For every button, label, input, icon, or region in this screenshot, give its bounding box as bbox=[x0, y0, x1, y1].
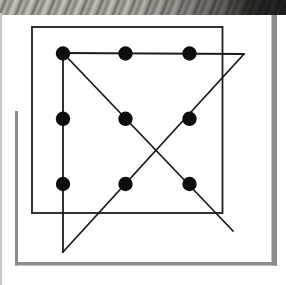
scanned-figure-page bbox=[0, 0, 286, 285]
frame-bottom-bar bbox=[15, 262, 277, 266]
dot-row2-col3 bbox=[182, 112, 196, 126]
dot-row1-col1 bbox=[56, 46, 70, 60]
dot-row3-col2 bbox=[118, 177, 132, 191]
solution-diagonal-up-right-line bbox=[63, 54, 244, 252]
dot-row2-col2 bbox=[118, 112, 132, 126]
frame-left-bar bbox=[15, 111, 18, 266]
frame-right-bar bbox=[272, 15, 278, 266]
dot-row3-col3 bbox=[182, 177, 196, 191]
solution-diagonal-down-right-line bbox=[63, 53, 233, 231]
dot-row3-col1 bbox=[56, 177, 70, 191]
dot-row1-col2 bbox=[118, 46, 132, 60]
dot-row2-col1 bbox=[56, 112, 70, 126]
solution-horizontal-top-line bbox=[63, 53, 244, 54]
dot-row1-col3 bbox=[182, 46, 196, 60]
nine-dots-puzzle-figure bbox=[0, 0, 286, 285]
